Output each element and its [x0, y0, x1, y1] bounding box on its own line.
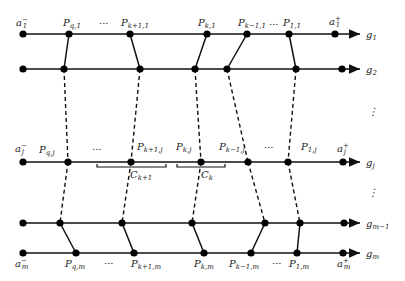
label-gm: gm: [366, 248, 379, 261]
ellipsis-mid: ...: [92, 141, 102, 152]
connections-gm-1-gm: [60, 223, 300, 253]
vdots-lower: ⋮: [368, 187, 378, 198]
label-am-minus: a−m: [15, 257, 29, 271]
ellipsis-mid-2: ...: [264, 139, 274, 150]
label-p-k-minus-1-1: Pk−1,1: [237, 17, 266, 30]
ellipsis-top-2: ...: [269, 16, 279, 27]
label-a1-minus: a−1: [16, 16, 28, 30]
label-g1: g1: [366, 29, 377, 42]
label-p-k-minus-1-j: Pk−1,j: [218, 141, 246, 154]
label-aj-plus: a+j: [337, 142, 349, 156]
label-p-k+1-j: Pk+1,j: [136, 141, 164, 154]
ellipsis-bottom-2: ...: [272, 255, 282, 266]
label-p-q-1: Pq,1: [62, 17, 81, 30]
label-p-1-m: P1,m: [288, 258, 309, 271]
label-p-q-m: Pq,m: [64, 258, 85, 271]
label-p-k+1-m: Pk+1,m: [130, 258, 162, 271]
label-a1-plus: a+1: [329, 15, 341, 29]
label-gj: gj: [366, 157, 375, 170]
label-gm-1: gm−1: [366, 218, 389, 231]
label-p-k+1-1: Pk+1,1: [120, 17, 149, 30]
label-p-k-1: Pk,1: [197, 17, 216, 30]
connections-g1-g2: [64, 34, 296, 69]
tsp-routing-diagram: g1 g2 gj gm−1 gm a−1 a+1 a−j a+j a−m a+m…: [0, 0, 405, 281]
label-p-k-j: Pk,j: [175, 141, 192, 154]
ellipsis-top: ...: [99, 15, 109, 26]
label-p-1-j: P1,j: [300, 141, 317, 154]
label-am-plus: a+m: [337, 257, 351, 271]
label-p-k-minus-1-m: Pk−1,m: [228, 258, 260, 271]
label-aj-minus: a−j: [15, 142, 27, 156]
label-p-q-j: Pq,j: [38, 144, 55, 157]
label-c-k+1: Ck+1: [130, 169, 152, 182]
label-p-k-m: Pk,m: [193, 258, 214, 271]
label-c-k: Ck: [201, 169, 213, 182]
label-p-1-1: P1,1: [282, 17, 301, 30]
label-g2: g2: [366, 64, 377, 77]
vdots-upper: ⋮: [368, 106, 378, 117]
ellipsis-bottom: ...: [104, 255, 114, 266]
